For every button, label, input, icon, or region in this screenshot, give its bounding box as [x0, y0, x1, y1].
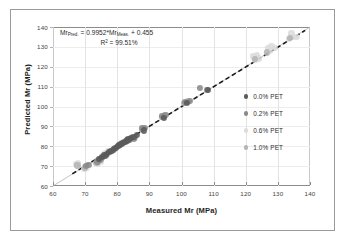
r-squared-annotation: R2 = 99.51% — [60, 38, 200, 48]
y-axis-title: Predicted Mr (MPa) — [23, 25, 32, 175]
r2-value: = 99.51% — [110, 39, 138, 46]
y-tick-label: 130 — [32, 43, 48, 50]
legend-item[interactable]: 0.0% PET — [244, 88, 306, 105]
x-tick — [310, 182, 311, 185]
equation-suffix: + 0.455 — [131, 29, 153, 36]
y-tick — [50, 67, 53, 68]
legend-marker-icon — [244, 128, 248, 132]
x-tick-label: 70 — [73, 190, 97, 197]
equation-subscript-meas: Meas. — [117, 32, 130, 37]
y-tick — [50, 146, 53, 147]
y-tick — [50, 186, 53, 187]
equation-annotation: MrPred. = 0.9952*MrMeas. + 0.455 R2 = 99… — [60, 28, 200, 48]
legend-item[interactable]: 0.2% PET — [244, 105, 306, 122]
y-tick — [50, 126, 53, 127]
x-tick-label: 90 — [137, 190, 161, 197]
y-tick — [50, 27, 53, 28]
y-tick-label: 140 — [32, 24, 48, 31]
x-tick — [246, 182, 247, 185]
r2-superscript: 2 — [105, 39, 108, 44]
y-tick — [50, 87, 53, 88]
x-tick-label: 100 — [170, 190, 194, 197]
x-tick-label: 120 — [234, 190, 258, 197]
legend: 0.0% PET0.2% PET0.6% PET1.0% PET — [244, 88, 306, 156]
x-tick-label: 110 — [202, 190, 226, 197]
y-tick-label: 110 — [32, 83, 48, 90]
x-tick — [53, 182, 54, 185]
x-axis-title: Measured Mr (MPa) — [53, 206, 310, 215]
y-tick-label: 60 — [32, 183, 48, 190]
figure-container: 60708090100110120130140 6070809010011012… — [0, 0, 346, 246]
legend-marker-icon — [244, 94, 248, 98]
x-tick — [149, 182, 150, 185]
x-tick — [214, 182, 215, 185]
legend-marker-icon — [244, 111, 248, 115]
legend-item-label: 0.6% PET — [253, 127, 283, 134]
equation-subscript-pred: Pred. — [68, 32, 79, 37]
y-tick-label: 80 — [32, 143, 48, 150]
legend-item[interactable]: 1.0% PET — [244, 139, 306, 156]
x-tick-label: 60 — [41, 190, 65, 197]
equation-middle: = 0.9952*Mr — [81, 29, 117, 36]
regression-equation: MrPred. = 0.9952*MrMeas. + 0.455 — [60, 28, 200, 38]
legend-marker-icon — [244, 145, 248, 149]
legend-item-label: 0.0% PET — [253, 93, 283, 100]
x-tick-label: 130 — [266, 190, 290, 197]
legend-item-label: 0.2% PET — [253, 110, 283, 117]
x-tick-label: 140 — [298, 190, 322, 197]
y-tick-label: 100 — [32, 103, 48, 110]
x-tick — [117, 182, 118, 185]
y-tick-label: 90 — [32, 123, 48, 130]
x-tick — [278, 182, 279, 185]
legend-item-label: 1.0% PET — [253, 144, 283, 151]
equation-prefix: Mr — [60, 29, 68, 36]
x-tick — [85, 182, 86, 185]
y-tick — [50, 107, 53, 108]
x-tick-label: 80 — [105, 190, 129, 197]
y-tick-label: 120 — [32, 63, 48, 70]
y-tick — [50, 47, 53, 48]
x-tick — [182, 182, 183, 185]
legend-item[interactable]: 0.6% PET — [244, 122, 306, 139]
y-tick — [50, 166, 53, 167]
y-tick-label: 70 — [32, 163, 48, 170]
